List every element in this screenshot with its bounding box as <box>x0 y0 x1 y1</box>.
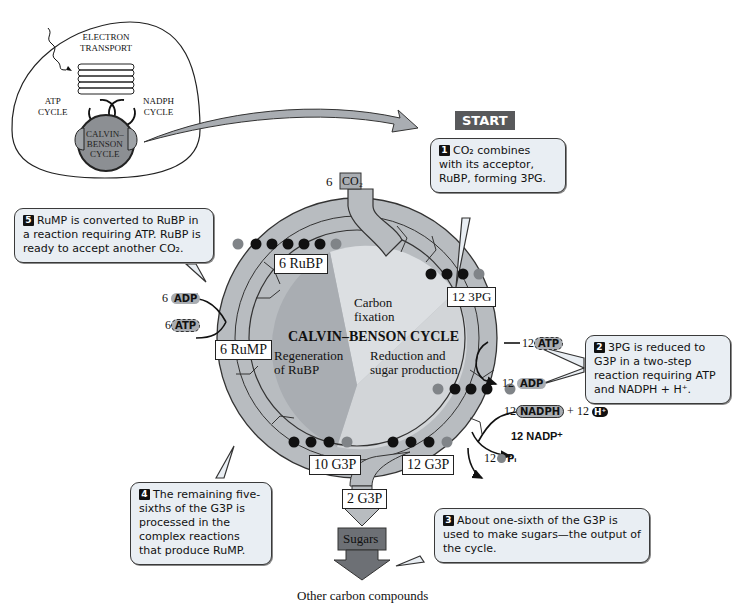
rump-label: 6 RuMP <box>215 340 272 360</box>
left-atp: 6ATP <box>165 318 200 333</box>
inset-electron-transport-label: ELECTRONTRANSPORT <box>80 32 132 54</box>
regeneration-label: Regenerationof RuBP <box>274 349 343 377</box>
reduction-label: Reduction andsugar production <box>370 349 458 377</box>
inset-nadph-cycle-label: NADPHCYCLE <box>143 96 174 118</box>
inset-atp-cycle-label: ATPCYCLE <box>38 96 68 118</box>
co2-count: 6 <box>326 174 333 190</box>
pg3-label: 12 3PG <box>447 287 496 307</box>
callout-4-pointer <box>216 446 234 478</box>
callout-4: 4The remaining five-sixths of the G3P is… <box>130 482 272 565</box>
carbon-fixation-label: Carbonfixation <box>354 296 394 324</box>
callout-1: 1CO₂ combines with its acceptor, RuBP, f… <box>430 138 566 193</box>
g3p-12-label: 12 G3P <box>402 455 454 475</box>
callout-5-pointer <box>186 264 206 282</box>
callout-3-pointer <box>396 556 424 566</box>
nadph-h: 12NADPH + 12 H⁺ <box>504 404 608 419</box>
sugars-label: Sugars <box>343 531 378 547</box>
sugars-down-arrow <box>334 550 390 580</box>
left-adp: 6 ADP <box>162 291 200 306</box>
inset-calvin-label: CALVIN–BENSONCYCLE <box>86 129 124 159</box>
nadp-plus: 12 NADP⁺ <box>511 430 563 443</box>
other-carbon-label: Other carbon compounds <box>297 588 428 604</box>
g3p-10-label: 10 G3P <box>309 455 361 475</box>
rubp-label: 6 RuBP <box>274 254 328 274</box>
start-label: START <box>455 111 515 130</box>
right-atp: 12ATP <box>522 336 563 351</box>
co2-label: CO₂ <box>342 174 363 189</box>
cycle-title: CALVIN–BENSON CYCLE <box>288 329 459 345</box>
pi: 12Pᵢ <box>484 451 517 466</box>
right-adp: 12 ADP <box>502 376 546 391</box>
callout-2: 23PG is reduced to G3P in a two-step rea… <box>585 335 731 404</box>
pi-out-arrow <box>468 448 482 478</box>
callout-5: 5RuMP is converted to RuBP in a reaction… <box>14 208 214 263</box>
g3p-2-label: 2 G3P <box>342 489 387 509</box>
callout-3: 3About one-sixth of the G3P is used to m… <box>434 508 650 563</box>
